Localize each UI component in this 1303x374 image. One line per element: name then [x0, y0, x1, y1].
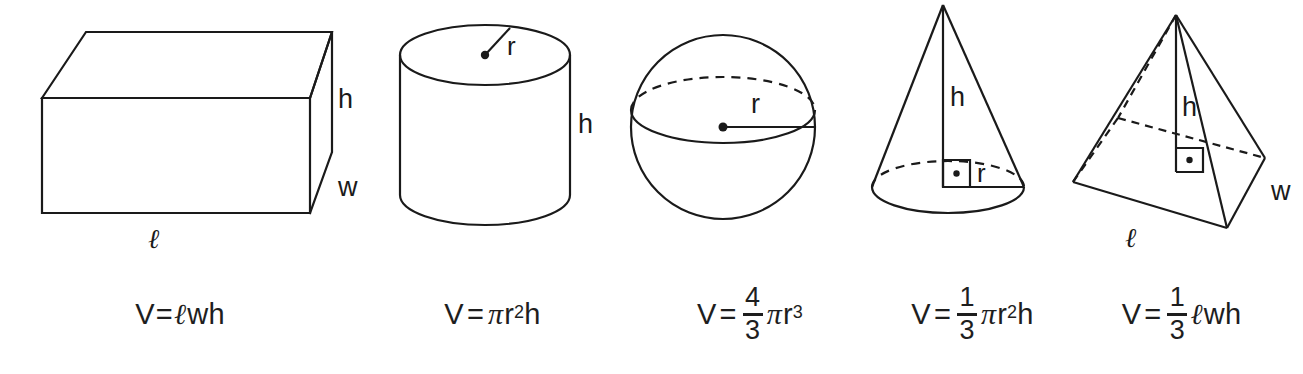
- formula-pi: π: [766, 297, 783, 331]
- cylinder-height-label: h: [578, 109, 593, 139]
- volume-formulas-sheet: h w ℓ V=ℓwh: [0, 0, 1303, 374]
- formula-sphere: V=43πr3: [625, 288, 875, 340]
- formula-trailing: h: [524, 298, 540, 331]
- pyramid-base-front-left-edge: [1073, 182, 1227, 228]
- cone-left-slant: [872, 5, 943, 187]
- figure-rectangular-prism: h w ℓ V=ℓwh: [0, 0, 360, 374]
- pyramid-right-angle-dot: [1186, 157, 1192, 163]
- cone-radius-label: r: [977, 158, 986, 188]
- formula-lhs: V: [697, 298, 717, 331]
- cylinder-center-dot: [481, 51, 489, 59]
- pyramid-base-front-right-edge: [1227, 158, 1265, 228]
- figure-sphere: r V=43πr3: [625, 0, 875, 374]
- formula-fraction: 13: [957, 284, 977, 344]
- fraction-denominator: 3: [1168, 316, 1187, 345]
- figure-pyramid: h w ℓ V=13ℓwh: [1060, 0, 1303, 374]
- formula-term-height: h: [208, 298, 224, 331]
- fraction-denominator: 3: [957, 316, 976, 345]
- formula-pyramid: V=13ℓwh: [1060, 288, 1303, 340]
- cylinder-radius-label: r: [507, 31, 516, 61]
- sphere-drawing: r: [625, 0, 875, 280]
- cylinder-drawing: r h: [360, 0, 625, 280]
- formula-lhs: V: [1122, 298, 1142, 331]
- prism-length-label: ℓ: [148, 224, 160, 254]
- formula-cylinder: V=πr2h: [360, 288, 625, 340]
- cylinder-bottom-arc: [400, 195, 570, 225]
- prism-front-face: [42, 98, 310, 213]
- fraction-denominator: 3: [743, 316, 762, 345]
- pyramid-edge-apex-back: [1118, 15, 1176, 118]
- prism-right-face: [310, 32, 332, 213]
- sphere-equator-back: [631, 77, 815, 110]
- formula-base: r: [504, 298, 514, 331]
- pyramid-length-label: ℓ: [1125, 223, 1137, 253]
- figure-cone: h r V=13πr2h: [865, 0, 1080, 374]
- formula-term-length: ℓ: [174, 298, 187, 331]
- formula-equals: =: [717, 298, 740, 331]
- formula-equals: =: [464, 298, 487, 331]
- formula-pi: π: [980, 297, 997, 331]
- formula-base: r: [997, 298, 1007, 331]
- formula-term-height: h: [1225, 298, 1241, 331]
- cone-right-angle-dot: [953, 170, 959, 176]
- rectangular-prism-drawing: h w ℓ: [0, 0, 360, 280]
- formula-equals: =: [931, 298, 954, 331]
- figure-cylinder: r h V=πr2h: [360, 0, 625, 374]
- formula-trailing: h: [1017, 298, 1033, 331]
- formula-lhs: V: [135, 298, 155, 331]
- formula-equals: =: [155, 298, 174, 331]
- formula-fraction: 13: [1167, 284, 1187, 344]
- formula-term-width: w: [1204, 298, 1225, 331]
- formula-rectangular-prism: V=ℓwh: [0, 288, 360, 340]
- cone-height-label: h: [950, 82, 965, 112]
- pyramid-drawing: h w ℓ: [1060, 0, 1303, 280]
- formula-term-width: w: [187, 298, 208, 331]
- formula-lhs: V: [911, 298, 931, 331]
- formula-equals: =: [1141, 298, 1164, 331]
- pyramid-height-label: h: [1182, 92, 1197, 122]
- sphere-center-dot: [719, 123, 728, 132]
- fraction-numerator: 1: [1168, 284, 1187, 313]
- pyramid-width-label: w: [1270, 176, 1291, 206]
- pyramid-edge-apex-left: [1073, 15, 1176, 182]
- formula-base: r: [783, 298, 793, 331]
- prism-width-label: w: [337, 172, 358, 202]
- prism-height-label: h: [338, 84, 353, 114]
- fraction-numerator: 4: [743, 284, 762, 313]
- cone-base-front-arc: [872, 187, 1024, 213]
- cone-drawing: h r: [865, 0, 1080, 280]
- fraction-numerator: 1: [957, 284, 976, 313]
- prism-top-face: [42, 32, 332, 98]
- formula-term-length: ℓ: [1190, 298, 1203, 331]
- sphere-radius-label: r: [751, 89, 760, 119]
- formula-lhs: V: [444, 298, 464, 331]
- cone-base-back-arc: [872, 161, 1024, 187]
- formula-fraction: 43: [743, 284, 763, 344]
- formula-cone: V=13πr2h: [865, 288, 1080, 340]
- formula-pi: π: [487, 297, 504, 331]
